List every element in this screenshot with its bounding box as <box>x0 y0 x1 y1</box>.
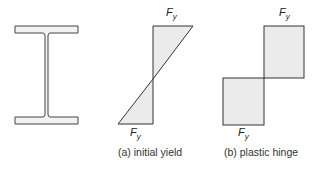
caption-initial-yield: (a) initial yield <box>118 146 182 158</box>
figure-canvas <box>0 0 320 170</box>
fy-bottom-label-a: Fy <box>130 126 141 141</box>
stress-diagram-initial-yield <box>118 26 193 124</box>
fy-top-label-a: Fy <box>166 6 177 21</box>
ibeam-shape <box>15 26 78 124</box>
fy-top-label-b: Fy <box>279 6 290 21</box>
caption-plastic-hinge: (b) plastic hinge <box>224 146 298 158</box>
fy-bottom-label-b: Fy <box>238 126 249 141</box>
stress-diagram-plastic-hinge <box>223 26 304 125</box>
